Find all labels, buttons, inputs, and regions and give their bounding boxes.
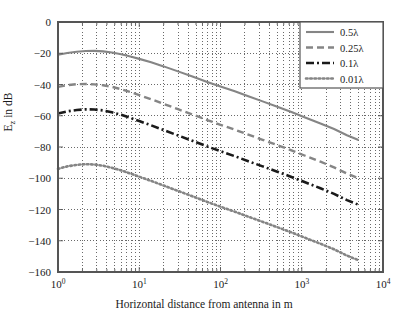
figure-container: 0−20−40−60−80−100−120−140−16010010110210…	[0, 0, 408, 320]
y-tick-label: −160	[28, 266, 51, 278]
chart-canvas: 0−20−40−60−80−100−120−140−16010010110210…	[0, 0, 408, 320]
x-tick-label: 104	[376, 277, 391, 291]
y-axis-label-main: E	[2, 124, 14, 131]
x-tick-label: 103	[294, 277, 309, 291]
y-tick-label: −60	[34, 110, 52, 122]
y-tick-label: −100	[28, 172, 51, 184]
legend-box: 0.5λ0.25λ0.1λ0.01λ	[300, 22, 383, 88]
legend-label: 0.5λ	[340, 27, 359, 38]
y-tick-label: −140	[28, 235, 51, 247]
y-axis-label-subscript: z	[8, 121, 17, 125]
legend-label: 0.1λ	[340, 58, 359, 69]
x-tick-label: 102	[213, 277, 228, 291]
y-axis-label-tail: in dB	[2, 93, 14, 121]
legend-label: 0.25λ	[340, 43, 364, 54]
y-tick-label: −20	[34, 47, 52, 59]
x-tick-label: 101	[132, 277, 147, 291]
legend-label: 0.01λ	[340, 74, 364, 85]
y-tick-label: 0	[46, 16, 52, 28]
y-tick-label: −80	[34, 141, 52, 153]
y-tick-label: −120	[28, 204, 51, 216]
y-axis-label: Ez in dB	[2, 0, 17, 112]
x-tick-label: 100	[51, 277, 66, 291]
x-axis-label: Horizontal distance from antenna in m	[0, 298, 408, 310]
y-tick-label: −40	[34, 79, 52, 91]
